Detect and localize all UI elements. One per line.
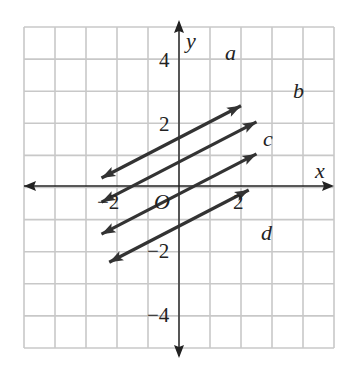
origin-label: O	[154, 189, 170, 214]
x-tick-2: 2	[233, 190, 244, 214]
graph: y x O −2 2 4 2 −2 −4 a b c d	[0, 0, 345, 366]
y-tick-neg4: −4	[147, 303, 170, 327]
x-axis-label: x	[314, 158, 325, 183]
y-tick-2: 2	[159, 112, 170, 136]
y-axis-label: y	[184, 28, 196, 53]
line-label-c: c	[263, 126, 273, 151]
y-tick-4: 4	[159, 48, 170, 72]
line-label-b: b	[293, 78, 304, 103]
y-tick-neg2: −2	[147, 239, 169, 263]
line-label-d: d	[261, 220, 273, 245]
axes	[24, 20, 334, 358]
line-label-a: a	[225, 40, 236, 65]
x-tick-neg2: −2	[97, 190, 119, 214]
